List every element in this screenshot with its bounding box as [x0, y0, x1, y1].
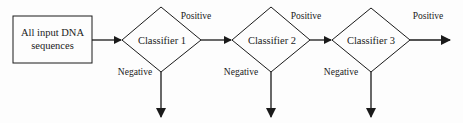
input-box: All input DNA sequences [13, 16, 92, 63]
classifier-1-label: Classifier 1 [138, 35, 186, 46]
classifier-2-negative-label: Negative [224, 67, 258, 77]
classifier-2-positive-label: Positive [291, 11, 322, 21]
input-box-line1: All input DNA [21, 27, 84, 38]
classifier-3-positive-label: Positive [413, 11, 444, 21]
classifier-2-label: Classifier 2 [248, 35, 296, 46]
classifier-cascade-diagram: All input DNA sequences Classifier 1 Pos… [0, 0, 463, 123]
input-box-line2: sequences [31, 40, 74, 51]
classifier-3: Classifier 3 [332, 8, 410, 72]
diagram-svg: All input DNA sequences Classifier 1 Pos… [0, 0, 463, 123]
classifier-1-positive-label: Positive [181, 11, 212, 21]
classifier-3-label: Classifier 3 [347, 35, 395, 46]
classifier-3-negative-label: Negative [324, 67, 358, 77]
classifier-1-negative-label: Negative [118, 67, 152, 77]
